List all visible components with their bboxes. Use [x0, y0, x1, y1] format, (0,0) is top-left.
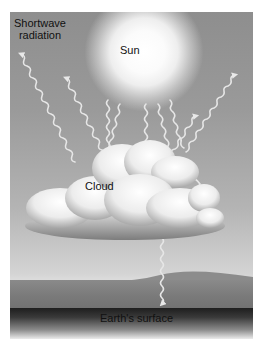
diagram-panel: Shortwave radiation Sun Cloud Earth's su…	[10, 12, 253, 339]
cloud	[10, 12, 253, 339]
shortwave-radiation-label: Shortwave radiation	[10, 17, 70, 41]
shortwave-label-line1: Shortwave	[10, 17, 70, 29]
cloud-label: Cloud	[85, 180, 114, 192]
shortwave-label-line2: radiation	[10, 29, 70, 41]
sun-label: Sun	[120, 44, 140, 56]
earth-surface-label: Earth's surface	[100, 312, 173, 324]
